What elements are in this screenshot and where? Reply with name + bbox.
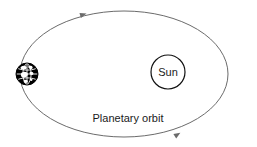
earth-globe-icon [16,63,38,85]
diagram-canvas: Sun [0,0,257,147]
planetary-orbit-diagram: Sun [0,0,257,147]
orbit-label: Planetary orbit [93,112,164,124]
orbit-direction-arrow-top-icon [79,11,87,18]
orbit-direction-arrow-bottom-icon [173,130,181,138]
sun-label: Sun [158,66,178,78]
